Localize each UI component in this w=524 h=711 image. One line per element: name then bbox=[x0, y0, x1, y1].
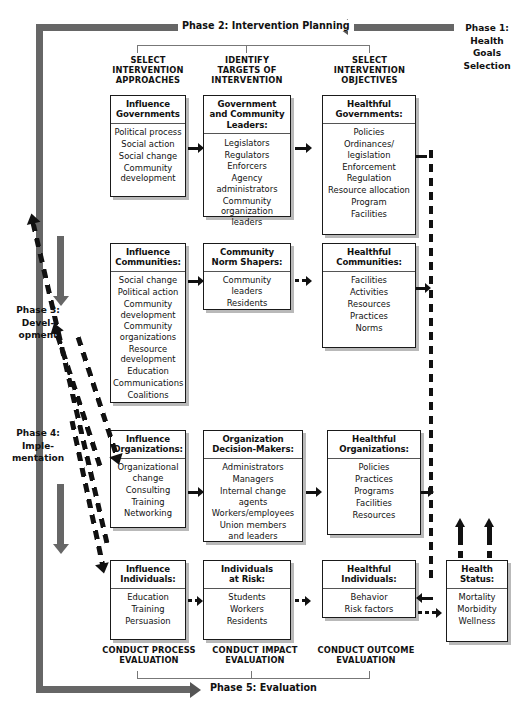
bottom-bracket-tick-1 bbox=[137, 671, 138, 679]
list-item: Communications bbox=[113, 377, 183, 389]
list-item: Practices bbox=[330, 474, 418, 486]
list-item: Social action bbox=[113, 139, 183, 151]
box-title: Influence Governments bbox=[111, 96, 185, 124]
list-item: Community leaders bbox=[206, 275, 288, 297]
phase1-label: Phase 1: Health Goals Selection bbox=[452, 22, 522, 72]
box-items: Facilities Activities Resources Practice… bbox=[323, 272, 415, 338]
box-title: Organization Decision-Makers: bbox=[204, 431, 302, 459]
arrow-target-to-objective-4 bbox=[295, 596, 313, 606]
list-item: Education bbox=[113, 592, 183, 604]
feedback-arrow-to-communities bbox=[97, 465, 98, 466]
list-item: Risk factors bbox=[325, 604, 413, 616]
frame-bottom-bar-2 bbox=[36, 686, 192, 693]
list-item: Community development bbox=[113, 162, 183, 184]
bottom-bracket-line bbox=[137, 678, 370, 679]
list-item: Social change bbox=[113, 275, 183, 287]
feedback-arrow-to-organizations bbox=[80, 336, 81, 337]
box-healthful-individuals[interactable]: Healthful Individuals: Behavior Risk fac… bbox=[322, 560, 416, 618]
bottom-bracket-tick-3 bbox=[369, 671, 370, 679]
box-health-status[interactable]: Health Status: Mortality Morbidity Welln… bbox=[446, 560, 508, 642]
arrow-target-to-objective-1 bbox=[295, 143, 313, 153]
list-item: Union members and leaders bbox=[206, 520, 300, 542]
list-item: Legislators bbox=[206, 137, 288, 149]
box-items: Students Workers Residents bbox=[204, 589, 290, 631]
bottom-caption-impact: CONDUCT IMPACT EVALUATION bbox=[205, 645, 305, 665]
phase5-arrowhead-icon-2 bbox=[190, 682, 201, 698]
arrow-feedback-to-individuals bbox=[416, 593, 434, 603]
box-healthful-communities[interactable]: Healthful Communities: Facilities Activi… bbox=[322, 243, 416, 348]
box-influence-individuals[interactable]: Influence Individuals: Education Trainin… bbox=[110, 560, 186, 640]
phase3-stub-bar bbox=[57, 236, 64, 298]
list-item: Ordinances/ legislation bbox=[325, 139, 413, 161]
list-item: Political action bbox=[113, 287, 183, 299]
feedback-arrow-to-individuals bbox=[74, 420, 75, 421]
box-community-norm-shapers[interactable]: Community Norm Shapers: Community leader… bbox=[203, 243, 291, 310]
box-individuals-at-risk[interactable]: Individuals at Risk: Students Workers Re… bbox=[203, 560, 291, 640]
box-organization-decision-makers[interactable]: Organization Decision-Makers: Administra… bbox=[203, 430, 303, 542]
list-item: Wellness bbox=[449, 615, 505, 627]
frame-top-bar-right bbox=[348, 24, 454, 31]
box-influence-communities[interactable]: Influence Communities: Social change Pol… bbox=[110, 243, 186, 403]
list-item: Morbidity bbox=[449, 604, 505, 616]
top-bracket-tick-1 bbox=[137, 45, 138, 53]
up-arrow-right-dash bbox=[487, 538, 492, 560]
column-caption-targets: IDENTIFY TARGETS OF INTERVENTION bbox=[201, 55, 293, 86]
arrow-approach-to-target-1 bbox=[188, 143, 204, 153]
list-item: Organizational change bbox=[113, 462, 183, 484]
column-caption-objectives: SELECT INTERVENTION OBJECTIVES bbox=[322, 55, 417, 86]
box-title: Healthful Individuals: bbox=[323, 561, 415, 589]
arrow-individuals-to-health-status bbox=[418, 608, 444, 618]
arrow-communities-to-feedback bbox=[416, 283, 432, 293]
box-title: Influence Individuals: bbox=[111, 561, 185, 589]
list-item: Consulting bbox=[113, 484, 183, 496]
arrow-organizations-to-feedback bbox=[421, 487, 435, 497]
list-item: Training bbox=[113, 496, 183, 508]
phase3-label: Phase 3: Devel- opment bbox=[2, 304, 74, 342]
list-item: Regulators bbox=[206, 149, 288, 161]
list-item: Enforcement bbox=[325, 161, 413, 173]
list-item: Resources bbox=[330, 509, 418, 521]
box-healthful-organizations[interactable]: Healthful Organizations: Policies Practi… bbox=[327, 430, 421, 535]
bottom-caption-outcome: CONDUCT OUTCOME EVALUATION bbox=[311, 645, 421, 665]
arrow-approach-to-target-4 bbox=[188, 596, 204, 606]
arrow-target-to-objective-3 bbox=[306, 487, 324, 497]
feedback-dashed-vertical bbox=[429, 150, 433, 583]
box-title: Influence Communities: bbox=[111, 244, 185, 272]
list-item: Agency administrators bbox=[206, 173, 288, 195]
list-item: Community development bbox=[113, 298, 183, 320]
box-items: Legislators Regulators Enforcers Agency … bbox=[204, 134, 290, 232]
box-title: Healthful Organizations: bbox=[328, 431, 420, 459]
top-bracket-tick-2 bbox=[246, 45, 247, 53]
list-item: Coalitions bbox=[113, 389, 183, 401]
list-item: Policies bbox=[325, 127, 413, 139]
list-item: Practices bbox=[325, 310, 413, 322]
box-influence-governments[interactable]: Influence Governments Political process … bbox=[110, 95, 186, 197]
list-item: Programs bbox=[330, 485, 418, 497]
box-items: Policies Practices Programs Facilities R… bbox=[328, 459, 420, 525]
list-item: Enforcers bbox=[206, 161, 288, 173]
list-item: Norms bbox=[325, 322, 413, 334]
list-item: Workers/employees bbox=[206, 508, 300, 520]
list-item: Social change bbox=[113, 150, 183, 162]
box-title: Community Norm Shapers: bbox=[204, 244, 290, 272]
list-item: Facilities bbox=[325, 275, 413, 287]
box-influence-organizations[interactable]: Influence Organizations: Organizational … bbox=[110, 430, 186, 528]
bottom-bracket-tick-2 bbox=[251, 671, 252, 679]
list-item: Community organizations bbox=[113, 321, 183, 343]
box-healthful-governments[interactable]: Healthful Governments: Policies Ordinanc… bbox=[322, 95, 416, 235]
top-bracket-line bbox=[137, 45, 370, 46]
diagram-canvas: Phase 2: Intervention Planning Phase 1: … bbox=[0, 0, 524, 711]
box-items: Community leaders Residents bbox=[204, 272, 290, 313]
box-government-community-leaders[interactable]: Government and Community Leaders: Legisl… bbox=[203, 95, 291, 217]
connector-gov-to-feedback bbox=[416, 155, 427, 158]
phase4-stub-bar bbox=[57, 484, 64, 546]
bottom-caption-process: CONDUCT PROCESS EVALUATION bbox=[94, 645, 204, 665]
box-items: Policies Ordinances/ legislation Enforce… bbox=[323, 124, 415, 224]
list-item: Community organization leaders bbox=[206, 195, 288, 228]
list-item: Persuasion bbox=[113, 615, 183, 627]
top-bracket-tick-3 bbox=[369, 45, 370, 53]
box-items: Political process Social action Social c… bbox=[111, 124, 185, 189]
list-item: Resource allocation bbox=[325, 185, 413, 197]
list-item: Behavior bbox=[325, 592, 413, 604]
box-items: Administrators Managers Internal change … bbox=[204, 459, 302, 546]
